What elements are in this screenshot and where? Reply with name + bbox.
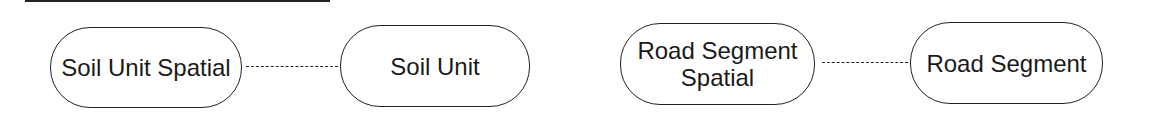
node-label: Soil Unit Spatial	[61, 54, 230, 81]
node-label: Road Segment Spatial	[633, 37, 802, 91]
dashed-link-soil	[246, 66, 338, 67]
node-road-segment-spatial: Road Segment Spatial	[620, 23, 815, 105]
node-label: Road Segment	[926, 50, 1086, 77]
node-road-segment: Road Segment	[910, 22, 1103, 104]
node-label: Soil Unit	[390, 53, 479, 80]
node-soil-unit: Soil Unit	[340, 25, 530, 107]
node-soil-unit-spatial: Soil Unit Spatial	[50, 27, 242, 108]
top-rule-line	[25, 0, 330, 2]
dashed-link-road	[822, 62, 908, 63]
